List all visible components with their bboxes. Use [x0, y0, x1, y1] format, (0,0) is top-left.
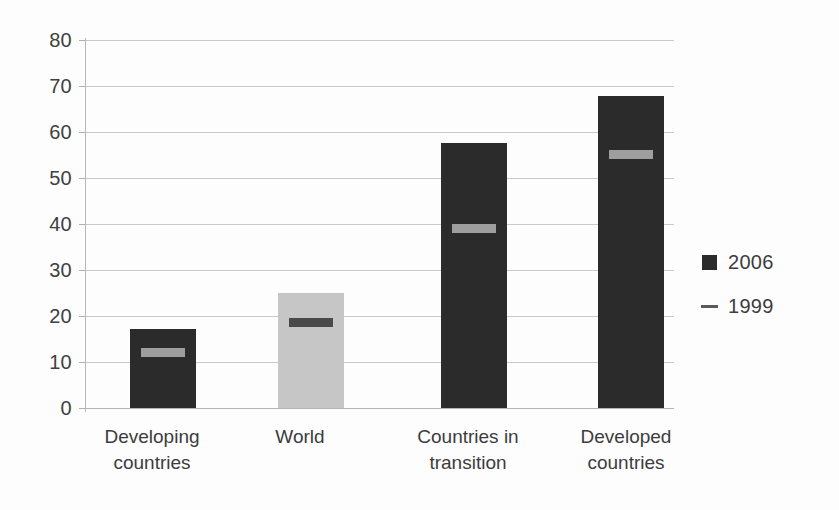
bar-group-developing-countries[interactable]	[130, 40, 196, 408]
y-tick-label-10: 10	[8, 352, 72, 372]
x-axis-label-countries-in-transition: Countries in transition	[398, 424, 538, 476]
bar-2006-countries-in-transition[interactable]	[441, 143, 507, 408]
gridline-baseline-0	[86, 408, 674, 409]
x-axis-label-line-2: countries	[556, 450, 696, 476]
legend-square-marker-icon	[700, 255, 718, 270]
marker-1999-developed-countries	[609, 150, 653, 159]
marker-1999-developing-countries	[141, 348, 185, 357]
y-tick-label-20: 20	[8, 306, 72, 326]
marker-1999-world	[289, 318, 333, 327]
x-axis-label-line-1: Developing	[92, 424, 212, 450]
legend-item-1999[interactable]: 1999	[700, 284, 830, 328]
y-tick-label-50: 50	[8, 168, 72, 188]
legend: 2006 1999	[700, 240, 830, 328]
bar-group-countries-in-transition[interactable]	[441, 40, 507, 408]
bar-chart: 80 70 60 50 40 30 20 10 0	[0, 0, 839, 510]
plot-area	[86, 40, 674, 408]
y-tick-label-30: 30	[8, 260, 72, 280]
x-axis-label-developed-countries: Developed countries	[556, 424, 696, 476]
x-axis-label-line-1: Developed	[556, 424, 696, 450]
y-tick-label-40: 40	[8, 214, 72, 234]
bar-2006-developed-countries[interactable]	[598, 96, 664, 408]
x-axis-label-line-1: Countries in	[398, 424, 538, 450]
legend-label-1999: 1999	[728, 296, 774, 316]
x-axis-label-world: World	[240, 424, 360, 450]
bar-2006-developing-countries[interactable]	[130, 329, 196, 408]
bar-2006-world[interactable]	[278, 293, 344, 408]
x-axis-label-developing-countries: Developing countries	[92, 424, 212, 476]
x-axis-label-line-2: transition	[398, 450, 538, 476]
y-tick-label-80: 80	[8, 30, 72, 50]
bar-group-world[interactable]	[278, 40, 344, 408]
y-tick-label-0: 0	[8, 398, 72, 418]
marker-1999-countries-in-transition	[452, 224, 496, 233]
y-axis-labels: 80 70 60 50 40 30 20 10 0	[0, 0, 72, 510]
legend-item-2006[interactable]: 2006	[700, 240, 830, 284]
y-tick-label-60: 60	[8, 122, 72, 142]
legend-dash-marker-icon	[700, 305, 718, 308]
bar-group-developed-countries[interactable]	[598, 40, 664, 408]
x-axis-label-line-1: World	[240, 424, 360, 450]
y-tick-label-70: 70	[8, 76, 72, 96]
x-axis-label-line-2: countries	[92, 450, 212, 476]
legend-label-2006: 2006	[728, 252, 774, 272]
